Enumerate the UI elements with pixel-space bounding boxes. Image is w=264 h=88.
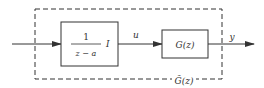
integrator-numerator: 1 xyxy=(83,32,89,42)
integrator-denominator: z − a xyxy=(75,49,97,58)
signal-u-label: u xyxy=(133,30,139,40)
integrator-suffix: I xyxy=(105,39,110,49)
signal-y-label: y xyxy=(228,32,235,42)
plant-label: G(z) xyxy=(176,40,195,50)
group-label: G̃(z) xyxy=(175,75,194,86)
block-diagram: 1 z − a I u G(z) y G̃(z) xyxy=(0,0,264,88)
